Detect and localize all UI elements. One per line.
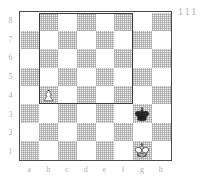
file-label: d <box>76 163 95 175</box>
rank-label: 7 <box>4 30 17 49</box>
rank-label: 1 <box>4 142 17 161</box>
file-label: b <box>39 163 58 175</box>
rank-label: 5 <box>4 67 17 86</box>
chess-diagram: 111 8 7 6 5 4 3 2 1 a b c d e f g h <box>0 0 204 178</box>
rank-label: 8 <box>4 11 17 30</box>
board-border <box>19 11 172 161</box>
file-label: f <box>114 163 133 175</box>
chess-board <box>19 11 172 161</box>
rank-label: 3 <box>4 105 17 124</box>
rank-coordinate-labels: 8 7 6 5 4 3 2 1 <box>4 11 17 161</box>
file-label: g <box>133 163 152 175</box>
file-label: e <box>95 163 114 175</box>
file-label: a <box>20 163 39 175</box>
rank-label: 2 <box>4 124 17 143</box>
rank-label: 6 <box>4 49 17 68</box>
file-label: h <box>151 163 170 175</box>
rank-label: 4 <box>4 86 17 105</box>
file-coordinate-labels: a b c d e f g h <box>20 163 170 175</box>
file-label: c <box>58 163 77 175</box>
diagram-number-label: 111 <box>178 6 198 17</box>
